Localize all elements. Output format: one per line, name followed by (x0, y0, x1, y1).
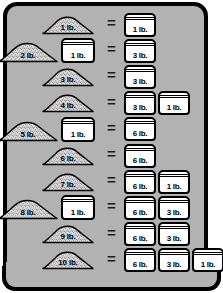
jar-rim-line (126, 69, 154, 70)
jar-rim-line (126, 228, 154, 229)
left-side-quantity: 3 lb. (41, 67, 95, 87)
jar-rim-line (63, 199, 93, 200)
jar-rim-line (160, 95, 188, 96)
jar-rim-line (126, 226, 154, 227)
jar-rim-line (126, 202, 154, 203)
jar-rim-line (160, 200, 188, 201)
left-side-quantity: 9 lb. (41, 224, 95, 244)
sand-pile: 4 lb. (41, 93, 95, 113)
weight-jar: 1 lb. (61, 117, 95, 142)
sand-pile-label: 5 lb. (0, 130, 59, 139)
jar-label: 1 lb. (158, 182, 190, 191)
left-side-quantity: 10 lb. (41, 250, 95, 270)
jar-rim-line (126, 150, 154, 151)
sand-pile: 7 lb. (41, 172, 95, 192)
table-row: 7 lb.=6 lb.1 lb. (0, 167, 223, 196)
sand-pile: 5 lb. (0, 120, 59, 142)
jar-label: 6 lb. (124, 156, 156, 165)
weight-jar: 3 lb. (158, 196, 190, 220)
table-row: 10 lb.=6 lb.3 lb.1 lb. (0, 246, 223, 275)
weight-jar: 6 lb. (124, 222, 156, 246)
sand-pile-label: 10 lb. (41, 258, 95, 267)
sand-pile: 1 lb. (41, 15, 95, 35)
left-side-quantity: 5 lb.1 lb. (0, 117, 95, 142)
jar-label: 1 lb. (124, 25, 156, 34)
jar-rim-line (63, 44, 93, 45)
sand-pile-label: 1 lb. (41, 23, 95, 32)
jar-rim-line (126, 43, 154, 44)
weight-jar: 1 lb. (61, 38, 95, 63)
jar-rim-line (126, 97, 154, 98)
jar-label: 3 lb. (124, 77, 156, 86)
jar-label: 1 lb. (192, 260, 223, 269)
weight-jar: 6 lb. (124, 117, 156, 141)
weight-jar: 1 lb. (158, 170, 190, 194)
right-side-quantity: 1 lb. (124, 13, 156, 37)
jar-rim-line (160, 176, 188, 177)
jar-label: 3 lb. (158, 208, 190, 217)
sand-pile-label: 3 lb. (41, 75, 95, 84)
weight-jar: 3 lb. (124, 91, 156, 115)
right-side-quantity: 3 lb. (124, 65, 156, 89)
left-side-quantity: 6 lb. (41, 146, 95, 166)
sand-pile: 2 lb. (0, 41, 59, 63)
equals-sign: = (103, 251, 119, 267)
sand-pile-label: 9 lb. (41, 232, 95, 241)
equals-sign: = (103, 41, 119, 57)
weight-jar: 3 lb. (158, 222, 190, 246)
weight-jar: 6 lb. (124, 170, 156, 194)
jar-label: 1 lb. (61, 208, 95, 217)
equals-sign: = (103, 15, 119, 31)
equals-sign: = (103, 198, 119, 214)
equals-sign: = (103, 172, 119, 188)
jar-rim-line (160, 252, 188, 253)
jar-rim-line (160, 97, 188, 98)
weight-jar: 1 lb. (124, 13, 156, 37)
jar-rim-line (126, 95, 154, 96)
jar-rim-line (126, 17, 154, 18)
table-row: 8 lb.1 lb.=6 lb.3 lb. (0, 193, 223, 222)
weight-jar: 1 lb. (192, 248, 223, 272)
jar-rim-line (63, 42, 93, 43)
table-row: 2 lb.1 lb.=3 lb. (0, 36, 223, 65)
right-side-quantity: 6 lb.3 lb.1 lb. (124, 248, 223, 272)
jar-rim-line (126, 19, 154, 20)
equals-sign: = (103, 120, 119, 136)
left-side-quantity: 1 lb. (41, 15, 95, 35)
right-side-quantity: 6 lb. (124, 117, 156, 141)
table-row: 4 lb.=3 lb.1 lb. (0, 89, 223, 118)
weight-jar: 3 lb. (124, 65, 156, 89)
sand-pile: 10 lb. (41, 250, 95, 270)
jar-rim-line (194, 252, 222, 253)
table-row: 6 lb.=6 lb. (0, 141, 223, 170)
table-row: 1 lb.=1 lb. (0, 10, 223, 39)
right-side-quantity: 6 lb.3 lb. (124, 196, 190, 220)
right-side-quantity: 6 lb. (124, 144, 156, 168)
left-side-quantity: 7 lb. (41, 172, 95, 192)
sand-pile-label: 6 lb. (41, 154, 95, 163)
jar-label: 6 lb. (124, 234, 156, 243)
jar-rim-line (126, 123, 154, 124)
jar-rim-line (126, 174, 154, 175)
table-row: 5 lb.1 lb.=6 lb. (0, 115, 223, 144)
jar-label: 6 lb. (124, 208, 156, 217)
weight-jar: 6 lb. (124, 144, 156, 168)
jar-rim-line (160, 202, 188, 203)
jar-label: 6 lb. (124, 129, 156, 138)
table-row: 3 lb.=3 lb. (0, 62, 223, 91)
weight-jar: 6 lb. (124, 248, 156, 272)
right-side-quantity: 3 lb. (124, 39, 156, 63)
equals-sign: = (103, 225, 119, 241)
sand-pile-label: 8 lb. (0, 208, 59, 217)
sand-pile-label: 7 lb. (41, 180, 95, 189)
jar-label: 3 lb. (124, 103, 156, 112)
jar-rim-line (194, 254, 222, 255)
jar-label: 6 lb. (124, 260, 156, 269)
jar-rim-line (160, 174, 188, 175)
sand-pile-label: 4 lb. (41, 101, 95, 110)
weight-jar: 1 lb. (61, 195, 95, 220)
left-side-quantity: 8 lb.1 lb. (0, 195, 95, 220)
jar-label: 3 lb. (158, 234, 190, 243)
jar-rim-line (126, 252, 154, 253)
jar-rim-line (63, 201, 93, 202)
